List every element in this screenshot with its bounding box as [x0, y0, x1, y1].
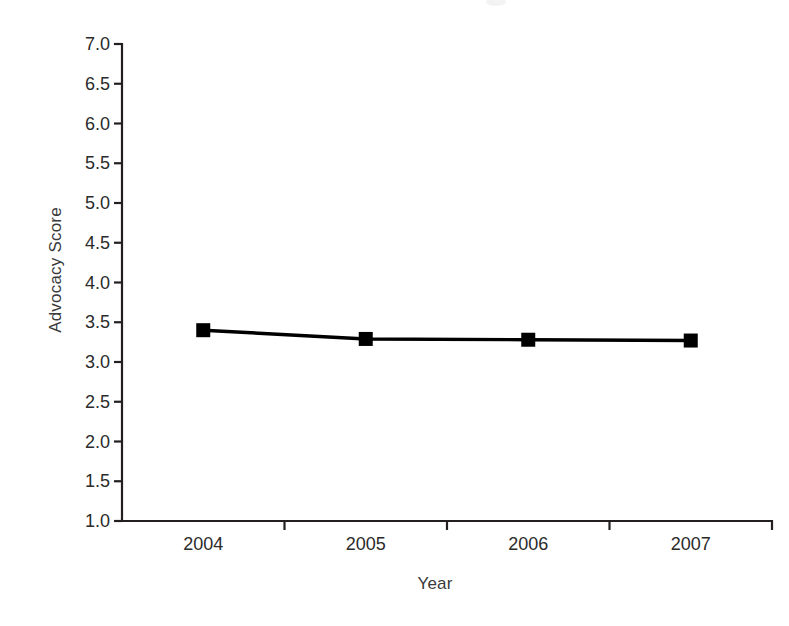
tick-marks	[114, 44, 610, 530]
data-series-advocacy-score	[196, 323, 698, 347]
series-line	[203, 330, 691, 340]
axis-lines	[115, 44, 772, 529]
axis-frame	[115, 44, 772, 529]
line-chart: Advocacy Score Year 7.06.56.05.55.04.54.…	[0, 0, 789, 626]
data-point-marker-2004	[196, 323, 210, 337]
scan-artifact	[486, 0, 506, 6]
data-point-marker-2006	[521, 333, 535, 347]
plot-area	[0, 0, 789, 626]
data-point-marker-2007	[684, 334, 698, 348]
data-point-marker-2005	[359, 332, 373, 346]
